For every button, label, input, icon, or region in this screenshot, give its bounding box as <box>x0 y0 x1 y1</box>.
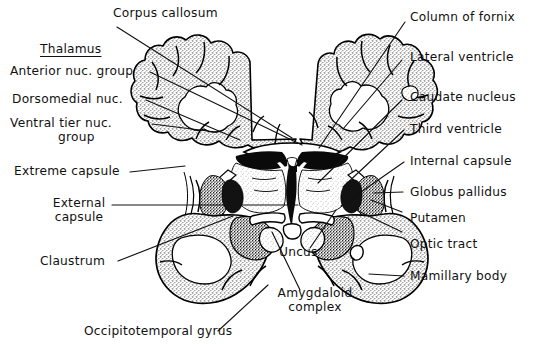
label-amygdaloid-line1: Amygdaloid <box>278 286 353 300</box>
label-amygdaloid-line2: complex <box>288 300 341 314</box>
label-external-capsule: External capsule <box>42 196 116 225</box>
left-claustrum <box>196 180 200 212</box>
label-ventral-tier-line1: Ventral tier nuc. <box>10 116 112 130</box>
right-claustrum <box>384 180 388 212</box>
label-thalamus-heading: Thalamus <box>40 42 101 56</box>
label-claustrum: Claustrum <box>40 254 105 268</box>
amygdaloid-leader <box>272 232 300 290</box>
left-hemisphere <box>131 35 296 150</box>
label-corpus-callosum: Corpus callosum <box>113 6 218 20</box>
label-uncus: Uncus <box>279 245 318 259</box>
third-ventricle-shape <box>286 164 297 228</box>
extreme-capsule-leader <box>130 166 185 172</box>
brain-coronal-section-figure: Corpus callosum Thalamus Anterior nuc. g… <box>0 0 537 353</box>
label-ventral-tier-nuc-group: Ventral tier nuc. group <box>10 116 112 145</box>
label-internal-capsule: Internal capsule <box>410 154 512 168</box>
right-optic-tract <box>299 213 334 225</box>
label-putamen: Putamen <box>410 211 466 225</box>
right-mamillary-detail <box>350 246 363 261</box>
label-ventral-tier-line2: group <box>10 130 95 144</box>
label-lateral-ventricle: Lateral ventricle <box>410 50 514 64</box>
label-external-capsule-line2: capsule <box>55 210 104 224</box>
label-dorsomedial-nuc: Dorsomedial nuc. <box>12 92 123 106</box>
label-caudate-nucleus: Caudate nucleus <box>410 90 516 104</box>
left-external-capsule <box>190 176 194 214</box>
left-optic-tract <box>250 213 285 225</box>
label-anterior-nuc-group: Anterior nuc. group <box>10 64 133 78</box>
third-ventricle-slit <box>286 170 296 228</box>
label-amygdaloid-complex: Amygdaloid complex <box>272 286 358 315</box>
label-globus-pallidus: Globus pallidus <box>410 185 507 199</box>
label-occipitotemporal-gyrus: Occipitotemporal gyrus <box>84 324 232 338</box>
label-third-ventricle: Third ventricle <box>410 122 502 136</box>
label-extreme-capsule: Extreme capsule <box>14 164 120 178</box>
label-external-capsule-line1: External <box>53 196 106 210</box>
left-extreme-capsule <box>184 172 188 216</box>
label-optic-tract: Optic tract <box>410 237 478 251</box>
mamillary-body-shape <box>283 224 301 239</box>
label-column-of-fornix: Column of fornix <box>410 10 515 24</box>
label-mamillary-body: Mamillary body <box>410 269 507 283</box>
